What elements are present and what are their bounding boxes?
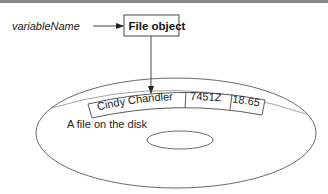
file-object-box: File object <box>124 15 186 36</box>
variable-name-label: variableName <box>12 20 80 32</box>
disk-hub-ellipse <box>147 131 213 149</box>
record-field-id: 7451Z <box>190 90 222 103</box>
disk-label: A file on the disk <box>67 118 148 130</box>
file-object-diagram: variableName File object Cindy Chandler … <box>0 0 328 194</box>
file-object-label: File object <box>129 20 186 32</box>
